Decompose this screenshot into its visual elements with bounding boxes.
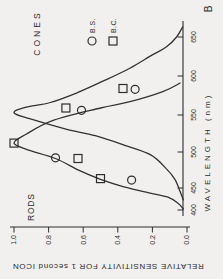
data-point-square-bc [119, 85, 127, 93]
legend-bc-label: B.C. [110, 18, 117, 33]
x-tick-label: 550 [190, 109, 197, 121]
scanned-figure-page: 4004505005506006501.00.80.60.40.20.0 ROD… [0, 0, 223, 279]
data-point-circle-bs [131, 85, 139, 93]
panel-label: B [203, 5, 214, 12]
data-point-circle-bs [128, 176, 136, 184]
y-tick-label: 0.2 [149, 235, 156, 245]
x-tick-label: 600 [190, 70, 197, 82]
legend-circle-marker [88, 37, 96, 45]
rotated-figure: 4004505005506006501.00.80.60.40.20.0 ROD… [0, 0, 223, 279]
y-axis-title: RELATIVE SENSITIVITY FOR 1 second ICON [12, 262, 204, 271]
x-axis-title: WAVELENGTH (nm) [203, 93, 212, 212]
x-tick-label: 450 [190, 182, 197, 194]
y-tick-label: 0.4 [114, 235, 121, 245]
y-tick-label: 0.8 [45, 235, 52, 245]
legend-square-marker [109, 37, 117, 45]
legend: B.S. B.C. [88, 18, 117, 45]
y-tick-label: 0.0 [183, 235, 190, 245]
data-point-square-bc [74, 155, 82, 163]
x-tick-label: 650 [190, 31, 197, 43]
rods-curve [14, 83, 183, 209]
y-tick-label: 0.6 [80, 235, 87, 245]
spectral-sensitivity-chart: 4004505005506006501.00.80.60.40.20.0 ROD… [0, 0, 223, 279]
cones-label: CONES [32, 10, 42, 55]
rods-label: RODS [26, 193, 36, 221]
data-point-square-bc [62, 104, 70, 112]
data-points [10, 85, 139, 185]
y-tick-label: 1.0 [10, 235, 17, 245]
legend-bs-label: B.S. [89, 18, 96, 33]
x-tick-label: 400 [190, 204, 197, 216]
x-tick-label: 500 [190, 146, 197, 158]
